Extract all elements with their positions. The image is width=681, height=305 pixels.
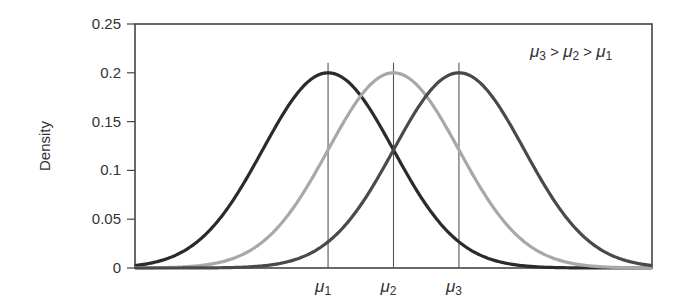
x-tick-label: μ1 (314, 277, 331, 298)
y-axis-ticks: 00.050.10.150.20.25 (92, 15, 135, 276)
mean-lines (328, 63, 459, 268)
x-tick-label: μ2 (379, 277, 396, 298)
svg-text:μ3 > μ2 > μ1: μ3 > μ2 > μ1 (529, 42, 613, 63)
y-axis-label: Density (36, 120, 53, 171)
y-tick-label: 0.2 (100, 64, 121, 81)
y-tick-label: 0.05 (92, 210, 121, 227)
y-tick-label: 0.1 (100, 161, 121, 178)
x-axis-labels: μ1μ2μ3 (314, 277, 462, 298)
y-tick-label: 0 (113, 259, 121, 276)
ordering-annotation: μ3 > μ2 > μ1 (529, 42, 613, 63)
density-chart: 00.050.10.150.20.25 μ1μ2μ3 Density μ3 > … (0, 0, 681, 305)
y-tick-label: 0.25 (92, 15, 121, 32)
y-tick-label: 0.15 (92, 113, 121, 130)
x-tick-label: μ3 (445, 277, 462, 298)
